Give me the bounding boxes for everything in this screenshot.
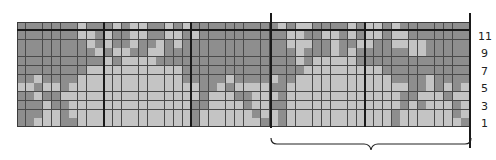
chart-cell bbox=[313, 92, 322, 101]
chart-cell bbox=[17, 110, 26, 119]
chart-cell bbox=[252, 40, 261, 49]
chart-cell bbox=[104, 92, 113, 101]
chart-cell bbox=[252, 66, 261, 75]
chart-cell bbox=[435, 83, 444, 92]
chart-cell bbox=[244, 66, 253, 75]
chart-cell bbox=[409, 83, 418, 92]
chart-cell bbox=[200, 101, 209, 110]
chart-cell bbox=[331, 40, 340, 49]
chart-cell bbox=[339, 75, 348, 84]
chart-cell bbox=[244, 101, 253, 110]
chart-cell bbox=[174, 48, 183, 57]
chart-cell bbox=[52, 92, 61, 101]
chart-cell bbox=[78, 57, 87, 66]
chart-cell bbox=[339, 31, 348, 40]
chart-cell bbox=[17, 40, 26, 49]
chart-cell bbox=[400, 31, 409, 40]
chart-cell bbox=[209, 57, 218, 66]
chart-cell bbox=[43, 31, 52, 40]
chart-cell bbox=[348, 110, 357, 119]
chart-cell bbox=[383, 48, 392, 57]
row-label-9: 9 bbox=[481, 48, 488, 59]
chart-cell bbox=[453, 48, 462, 57]
chart-cell bbox=[165, 110, 174, 119]
chart-cell bbox=[34, 66, 43, 75]
chart-cell bbox=[78, 118, 87, 127]
chart-cell bbox=[287, 101, 296, 110]
chart-cell bbox=[418, 83, 427, 92]
chart-cell bbox=[122, 75, 131, 84]
chart-cell bbox=[191, 110, 200, 119]
chart-cell bbox=[392, 118, 401, 127]
chart-cell bbox=[426, 118, 435, 127]
chart-cell bbox=[278, 118, 287, 127]
chart-cell bbox=[322, 101, 331, 110]
chart-cell bbox=[174, 31, 183, 40]
col-20-divider bbox=[190, 22, 192, 127]
chart-cell bbox=[34, 118, 43, 127]
chart-cell bbox=[339, 101, 348, 110]
chart-cell bbox=[426, 75, 435, 84]
chart-cell bbox=[444, 92, 453, 101]
chart-cell bbox=[261, 118, 270, 127]
chart-cell bbox=[418, 48, 427, 57]
chart-cell bbox=[261, 75, 270, 84]
chart-cell bbox=[261, 57, 270, 66]
chart-cell bbox=[261, 48, 270, 57]
chart-cell bbox=[130, 66, 139, 75]
chart-cell bbox=[252, 57, 261, 66]
chart-cell bbox=[139, 110, 148, 119]
chart-cell bbox=[226, 66, 235, 75]
chart-cell bbox=[217, 118, 226, 127]
chart-cell bbox=[435, 101, 444, 110]
chart-cell bbox=[304, 57, 313, 66]
chart-cell bbox=[130, 31, 139, 40]
chart-cell bbox=[365, 92, 374, 101]
chart-cell bbox=[78, 101, 87, 110]
chart-cell bbox=[444, 57, 453, 66]
chart-cell bbox=[113, 92, 122, 101]
chart-cell bbox=[304, 83, 313, 92]
chart-cell bbox=[426, 83, 435, 92]
chart-cell bbox=[156, 31, 165, 40]
chart-cell bbox=[226, 75, 235, 84]
chart-cell bbox=[331, 83, 340, 92]
chart-cell bbox=[313, 118, 322, 127]
chart-cell bbox=[148, 31, 157, 40]
chart-cell bbox=[365, 31, 374, 40]
chart-cell bbox=[287, 66, 296, 75]
chart-cell bbox=[331, 66, 340, 75]
chart-cell bbox=[78, 75, 87, 84]
chart-cell bbox=[348, 40, 357, 49]
chart-cell bbox=[148, 66, 157, 75]
chart-cell bbox=[444, 118, 453, 127]
chart-cell bbox=[348, 31, 357, 40]
chart-cell bbox=[235, 66, 244, 75]
chart-cell bbox=[365, 83, 374, 92]
chart-cell bbox=[17, 101, 26, 110]
chart-cell bbox=[191, 75, 200, 84]
chart-cell bbox=[165, 66, 174, 75]
chart-cell bbox=[444, 101, 453, 110]
chart-cell bbox=[331, 118, 340, 127]
chart-cell bbox=[87, 110, 96, 119]
chart-cell bbox=[409, 101, 418, 110]
chart-cell bbox=[235, 48, 244, 57]
chart-cell bbox=[331, 110, 340, 119]
chart-cell bbox=[217, 83, 226, 92]
chart-cell bbox=[17, 75, 26, 84]
chart-cell bbox=[165, 101, 174, 110]
chart-cell bbox=[418, 40, 427, 49]
chart-cell bbox=[174, 92, 183, 101]
chart-cell bbox=[435, 48, 444, 57]
chart-cell bbox=[339, 66, 348, 75]
chart-cell bbox=[174, 101, 183, 110]
chart-cell bbox=[304, 40, 313, 49]
chart-cell bbox=[156, 118, 165, 127]
chart-cell bbox=[278, 40, 287, 49]
chart-cell bbox=[453, 66, 462, 75]
chart-cell bbox=[122, 48, 131, 57]
chart-cell bbox=[130, 48, 139, 57]
chart-cell bbox=[139, 57, 148, 66]
chart-cell bbox=[217, 92, 226, 101]
